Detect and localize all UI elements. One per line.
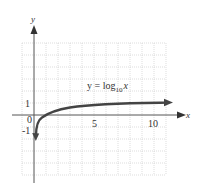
y-tick-1: 1 <box>25 98 30 109</box>
function-label: y = log10x <box>87 80 128 94</box>
log-graph: y x 0 5 10 1 -1 y = log10x <box>0 0 204 189</box>
function-label-lhs: y = log <box>87 80 115 91</box>
function-label-sub: 10 <box>115 86 123 94</box>
x-axis-label: x <box>185 110 190 120</box>
y-axis-arrow-icon <box>31 25 38 34</box>
y-axis-label: y <box>30 14 35 24</box>
x-tick-5: 5 <box>92 118 97 129</box>
axes <box>12 30 180 183</box>
curve-start-arrow-icon <box>32 133 39 141</box>
curve-end-arrow-icon <box>164 99 173 106</box>
x-tick-0: 0 <box>27 114 32 125</box>
x-axis-arrow-icon <box>177 112 186 119</box>
grid <box>22 43 166 175</box>
y-tick-neg1: -1 <box>22 125 30 136</box>
x-tick-10: 10 <box>148 118 158 129</box>
function-label-var: x <box>122 80 128 91</box>
